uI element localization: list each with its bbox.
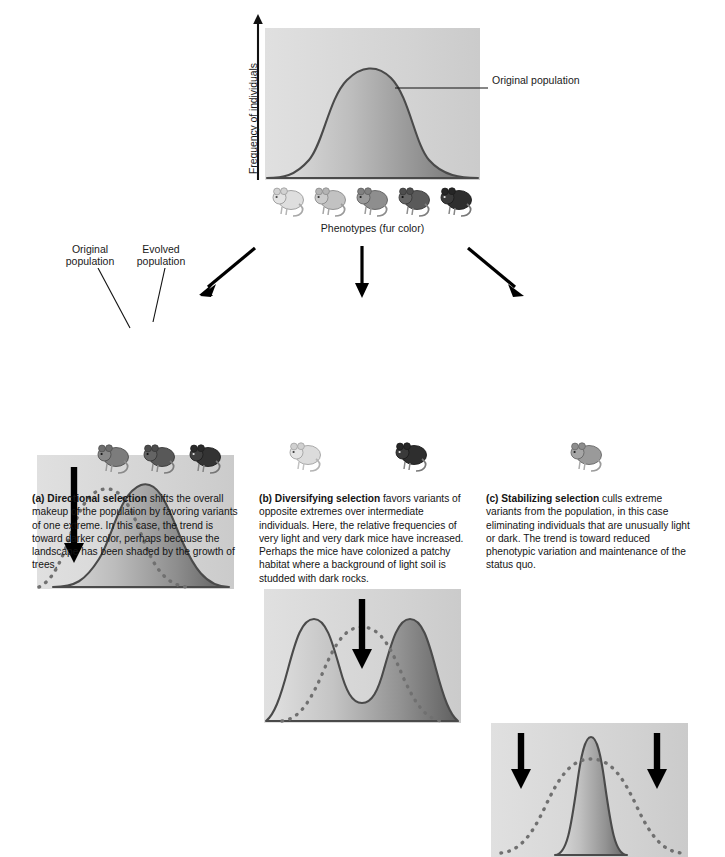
mouse-1-lightest-icon	[269, 185, 309, 219]
mouse-medium-icon	[567, 440, 607, 474]
mouse-3-medium-icon	[353, 185, 393, 219]
arrow-to-panel-b	[355, 246, 369, 298]
mouse-4-dark-icon	[395, 185, 435, 219]
selection-arrow-c-right	[647, 733, 667, 789]
mouse-medium-icon	[94, 442, 134, 476]
caption-b-term: Diversifying selection	[275, 493, 380, 504]
caption-b-letter: (b)	[259, 493, 272, 504]
evolved-population-curve-c	[555, 737, 627, 855]
y-axis-label-text: Frequency of individuals	[247, 63, 259, 174]
selection-arrow-b	[352, 599, 372, 669]
caption-panel-b: (b) Diversifying selection favors varian…	[259, 492, 466, 585]
panel-b-diversifying-selection-plot	[264, 589, 461, 723]
panel-c-stabilizing-selection-plot	[491, 723, 688, 857]
panel-b-mice-row	[264, 440, 461, 476]
branch-arrows	[0, 240, 725, 306]
caption-a-letter: (a)	[32, 493, 44, 504]
top-mice-row	[265, 185, 480, 219]
arrow-to-panel-c	[468, 248, 524, 297]
mouse-5-darkest-icon	[437, 185, 477, 219]
y-axis-label: Frequency of individuals	[233, 30, 251, 180]
mouse-dark-icon	[140, 442, 180, 476]
top-curve-svg	[265, 28, 480, 180]
x-axis-label: Phenotypes (fur color)	[265, 222, 480, 234]
mouse-darkest-icon	[392, 440, 432, 474]
caption-c-letter: (c)	[486, 493, 498, 504]
top-distribution-plot	[265, 28, 480, 180]
caption-a-term: Directional selection	[47, 493, 147, 504]
panel-c-mice-row	[491, 440, 688, 476]
callout-original-population-top: Original population	[492, 74, 580, 86]
arrow-to-panel-a	[199, 248, 255, 297]
mouse-darkest-icon	[186, 442, 226, 476]
selection-arrow-c-left	[511, 733, 531, 789]
caption-c-text: culls extreme variants from the populati…	[486, 493, 690, 570]
caption-a-text: shifts the overall makeup of the populat…	[32, 493, 238, 570]
caption-b-text: favors variants of opposite extremes ove…	[259, 493, 463, 584]
caption-panel-c: (c) Stabilizing selection culls extreme …	[486, 492, 693, 572]
caption-panel-a: (a) Directional selection shifts the ove…	[32, 492, 239, 572]
callout-leader-line-original	[395, 79, 490, 97]
mouse-lightest-icon	[286, 440, 326, 474]
panel-a-mice-row	[37, 440, 234, 476]
caption-c-term: Stabilizing selection	[501, 493, 599, 504]
mouse-2-light-icon	[311, 185, 351, 219]
